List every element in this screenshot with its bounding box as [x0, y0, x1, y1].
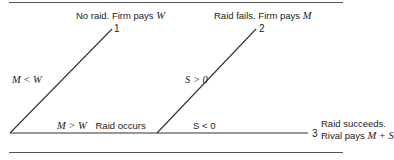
node-3-label: 3: [312, 128, 318, 139]
node-1-label: 1: [114, 23, 120, 34]
edge-label-s-greater-0: S > 0: [185, 74, 208, 85]
node-2-outcome-text: Raid fails. Firm pays: [214, 10, 303, 21]
node-3-outcome-line2-text: Rival pays: [321, 130, 367, 141]
node-2-label: 2: [259, 23, 265, 34]
node-1-outcome: No raid. Firm pays W: [76, 10, 165, 21]
edge-label-m-greater-w: M > W: [57, 120, 87, 131]
edge-label-raid-occurs: M > W Raid occurs: [57, 120, 146, 131]
edge-label-m-less-w: M < W: [12, 74, 42, 85]
node-1-outcome-text: No raid. Firm pays: [76, 10, 156, 21]
node-1-outcome-math: W: [156, 10, 165, 21]
node-3-outcome-line2: Rival pays M + S: [321, 130, 394, 141]
node-3-outcome-line2-math: M + S: [367, 130, 393, 141]
node-3-outcome-line1: Raid succeeds.: [321, 118, 386, 129]
edge-label-s-less-0: S < 0: [193, 120, 215, 131]
node-2-outcome-math: M: [303, 10, 312, 21]
edge-label-raid-occurs-text: Raid occurs: [95, 120, 145, 131]
node-2-outcome: Raid fails. Firm pays M: [214, 10, 311, 21]
